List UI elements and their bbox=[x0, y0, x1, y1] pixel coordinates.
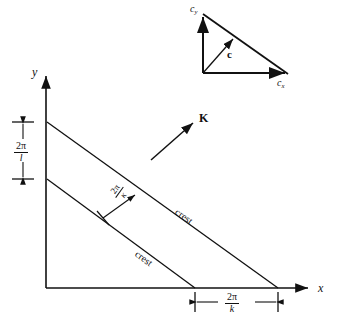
x-spacing-label: 2π k bbox=[225, 292, 239, 314]
wave-crest-diagram bbox=[0, 0, 340, 322]
velocity-x-component-label: cx bbox=[277, 78, 284, 89]
wavenumber-vector-arrow bbox=[151, 123, 193, 160]
velocity-triangle bbox=[203, 14, 288, 74]
wavenumber-vector-label: K bbox=[199, 112, 208, 124]
y-spacing-label: 2π l bbox=[14, 141, 28, 163]
axis-y-label: y bbox=[32, 66, 37, 78]
velocity-y-component-label: cy bbox=[190, 4, 197, 15]
axis-x-label: x bbox=[318, 282, 323, 294]
velocity-resultant-label: c bbox=[227, 49, 232, 60]
